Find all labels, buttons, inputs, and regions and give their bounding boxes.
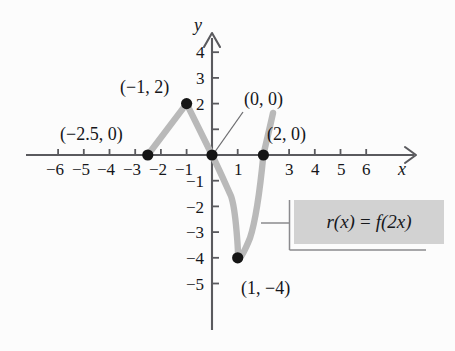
point-label-2-0: (2, 0) [267, 125, 306, 143]
x-tick-label-1: 1 [234, 161, 243, 178]
equation-part-arg1: (x) [334, 211, 355, 232]
y-tick-label-3: 3 [196, 70, 205, 87]
y-tick-label--2: −2 [186, 199, 204, 216]
x-tick-label-4: 4 [311, 161, 320, 178]
x-tick-label-5: 5 [337, 161, 346, 178]
y-tick-label--5: −5 [186, 276, 204, 293]
equation-callout-text: r(x)=f(2x) [326, 211, 411, 233]
point-0-0 [206, 149, 217, 160]
y-tick-label--1: −1 [186, 173, 204, 190]
figure-canvas: y x −6 −5 −4 −3 −2 −1 1 3 4 5 6 4 3 2 −1… [0, 0, 455, 351]
x-tick-label--6: −6 [46, 161, 64, 178]
point-label-1-neg4: (1, −4) [241, 279, 290, 297]
point-label-neg2point5-0: (−2.5, 0) [60, 125, 123, 143]
y-axis [204, 33, 220, 330]
point-label-0-0: (0, 0) [244, 90, 283, 108]
equation-part-fn-r: r [326, 211, 333, 232]
point-2-0 [258, 149, 269, 160]
x-axis-label: x [398, 160, 406, 178]
x-tick-label-3: 3 [285, 161, 294, 178]
y-axis-label: y [194, 16, 202, 34]
x-tick-label-6: 6 [362, 161, 371, 178]
equation-part-arg2: (2x) [381, 211, 412, 232]
x-tick-label--3: −3 [123, 161, 141, 178]
curve-r-of-x [148, 104, 273, 259]
point-1-neg4 [232, 252, 243, 263]
x-tick-label--2: −2 [149, 161, 167, 178]
y-tick-label--4: −4 [186, 250, 204, 267]
equation-part-equals: = [355, 211, 376, 232]
x-tick-label--4: −4 [97, 161, 115, 178]
point-label-neg1-2: (−1, 2) [120, 78, 169, 96]
graph-svg [0, 0, 455, 351]
leader-line-origin-label [216, 112, 244, 151]
equation-callout-box: r(x)=f(2x) [294, 200, 444, 244]
y-tick-label-4: 4 [196, 44, 205, 61]
x-tick-label--5: −5 [72, 161, 90, 178]
y-tick-label-2: 2 [196, 96, 205, 113]
point-neg1-2 [181, 98, 192, 109]
y-tick-label--3: −3 [186, 224, 204, 241]
point-neg2point5-0 [142, 149, 153, 160]
